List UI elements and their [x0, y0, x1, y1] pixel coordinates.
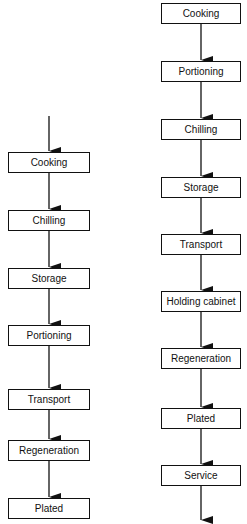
left-step-transport: Transport: [8, 389, 90, 410]
left-step-portioning: Portioning: [8, 325, 90, 346]
right-step-regeneration: Regeneration: [161, 348, 241, 369]
right-step-service: Service: [161, 465, 241, 486]
right-step-chilling: Chilling: [161, 119, 241, 140]
left-step-cooking: Cooking: [8, 152, 90, 173]
right-step-plated: Plated: [161, 408, 241, 429]
left-step-storage: Storage: [8, 268, 90, 289]
right-step-cooking: Cooking: [161, 3, 241, 24]
left-step-regeneration: Regeneration: [8, 440, 90, 461]
right-step-holding-cabinet: Holding cabinet: [161, 291, 241, 312]
left-step-plated: Plated: [8, 498, 90, 519]
right-step-portioning: Portioning: [161, 61, 241, 82]
right-step-transport: Transport: [161, 234, 241, 255]
right-step-storage: Storage: [161, 177, 241, 198]
left-step-chilling: Chilling: [8, 210, 90, 231]
